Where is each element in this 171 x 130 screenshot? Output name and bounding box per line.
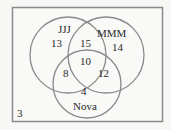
region-outside: 3 [17,107,23,119]
set-label-jjj: JJJ [58,23,72,35]
set-label-nova: Nova [73,100,97,112]
venn-diagram: JJJ 13 MMM 14 15 10 8 12 4 Nova 3 [0,0,171,130]
region-nova-only: 4 [81,85,87,97]
region-mmm-only: 14 [112,41,124,53]
set-label-mmm: MMM [97,27,127,39]
region-jjj-mmm: 15 [80,37,92,49]
region-jjj-nova: 8 [63,67,69,79]
region-all-three: 10 [80,55,92,67]
region-jjj-only: 13 [51,37,63,49]
region-mmm-nova: 12 [98,67,109,79]
